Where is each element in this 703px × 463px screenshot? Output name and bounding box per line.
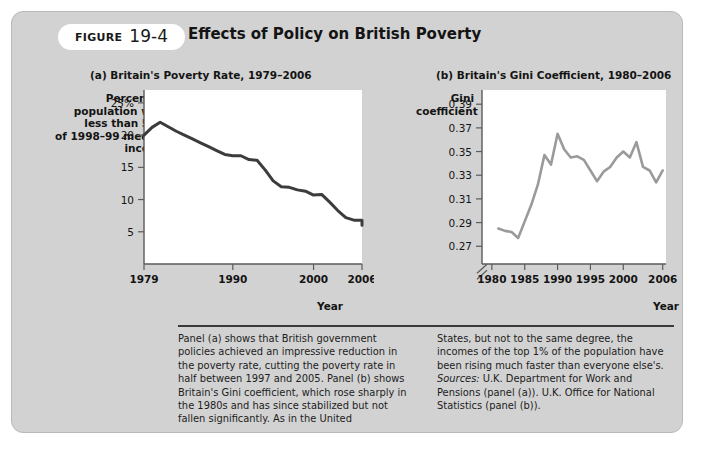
figure-number-badge: FIGURE 19-4 — [58, 24, 185, 50]
caption-text-left: Panel (a) shows that British government … — [178, 332, 415, 426]
caption-sources: Sources: U.K. Department for Work and Pe… — [437, 372, 674, 412]
panel-b-x-axis-label: Year — [653, 300, 679, 312]
figure-caption: Panel (a) shows that British government … — [178, 332, 674, 426]
panel-b-x-tick-label: 1990 — [543, 273, 572, 285]
panel-b-x-tick-label: 1985 — [510, 273, 539, 285]
panel-b-title: (b) Britain's Gini Coefficient, 1980–200… — [436, 69, 671, 81]
panel-b-y-tick-label: 0.39 — [449, 98, 472, 110]
panel-b-chart: 0.270.290.310.330.350.370.39198019851990… — [404, 82, 684, 297]
panel-b-x-tick-label: 1995 — [576, 273, 605, 285]
figure-header: FIGURE 19-4 Effects of Policy on British… — [12, 24, 682, 50]
figure-badge-word: FIGURE — [75, 31, 122, 44]
panel-a-x-tick-label: 1979 — [129, 273, 158, 285]
panel-a-y-tick-label: 25% — [111, 97, 134, 109]
figure-title: Effects of Policy on British Poverty — [188, 25, 481, 43]
panel-a-plot-area — [144, 90, 362, 264]
panel-b-y-tick-label: 0.31 — [449, 193, 472, 205]
caption-column-right: States, but not to the same degree, the … — [437, 332, 674, 426]
caption-column-left: Panel (a) shows that British government … — [178, 332, 415, 426]
panel-a-y-tick-label: 15 — [121, 161, 134, 173]
panel-a-y-tick-label: 20 — [121, 129, 134, 141]
caption-text-right: States, but not to the same degree, the … — [437, 332, 674, 372]
panel-a-title: (a) Britain's Poverty Rate, 1979–2006 — [90, 69, 312, 81]
panel-b-x-tick-label: 2006 — [648, 273, 677, 285]
panel-b-y-tick-label: 0.29 — [449, 217, 472, 229]
panel-a-y-tick-label: 5 — [127, 226, 134, 238]
panel-a-x-tick-label: 1990 — [218, 273, 247, 285]
panel-b-y-tick-label: 0.27 — [449, 240, 472, 252]
panel-a-chart: 510152025%1979199020002006 — [34, 82, 374, 297]
figure-badge-number: 19-4 — [129, 26, 168, 46]
sources-label: Sources: — [437, 373, 480, 384]
panel-a-y-tick-label: 10 — [121, 194, 134, 206]
figure-card: FIGURE 19-4 Effects of Policy on British… — [11, 11, 683, 433]
panel-a-x-axis-label: Year — [317, 300, 343, 312]
panel-b-y-tick-label: 0.33 — [449, 169, 472, 181]
panel-a-x-tick-label: 2006 — [347, 273, 374, 285]
panel-b-y-tick-label: 0.37 — [449, 122, 472, 134]
panel-b-y-tick-label: 0.35 — [449, 146, 472, 158]
panel-a-x-tick-label: 2000 — [299, 273, 328, 285]
panel-b-x-tick-label: 2000 — [609, 273, 638, 285]
caption-divider — [178, 325, 674, 327]
panel-b-plot-area — [482, 90, 666, 264]
panel-b-x-tick-label: 1980 — [477, 273, 506, 285]
